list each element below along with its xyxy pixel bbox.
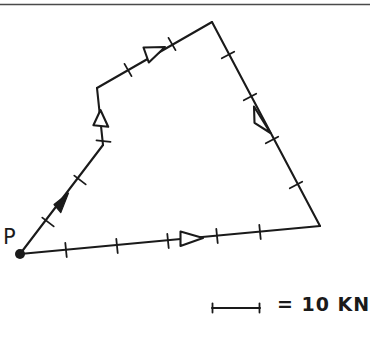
arrowhead-hollow-segment-c-d <box>254 107 271 134</box>
tick-mark <box>116 239 117 253</box>
tick-mark <box>97 140 111 142</box>
arrowhead-hollow-segment-d-p <box>181 232 204 247</box>
scale-legend-label: = 10 KN <box>277 295 370 314</box>
arrowhead-solid-segment-p-a <box>54 193 69 213</box>
start-point-marker <box>15 249 25 259</box>
tick-mark <box>65 243 66 257</box>
scale-bar <box>212 304 260 313</box>
edge-d-p <box>20 226 320 254</box>
tick-mark <box>259 225 260 239</box>
tick-mark <box>167 234 168 248</box>
tick-mark <box>216 229 217 243</box>
arrowhead-hollow-segment-a-b <box>93 110 108 127</box>
tick-marks <box>42 38 302 257</box>
figure-canvas: P = 10 KN <box>0 0 370 337</box>
point-p-label: P <box>3 227 16 248</box>
force-polygon-svg <box>0 0 370 337</box>
